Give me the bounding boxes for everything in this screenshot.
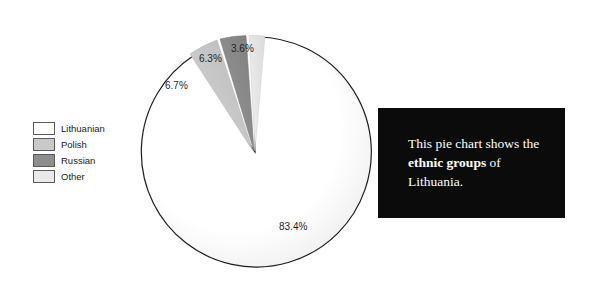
- slice-label-polish: 6.7%: [165, 80, 188, 91]
- legend-swatch-lithuanian: [33, 122, 55, 135]
- caption-box: This pie chart shows the ethnic groups o…: [378, 108, 565, 218]
- slice-label-russian: 6.3%: [199, 53, 222, 64]
- legend-swatch-russian: [33, 154, 55, 167]
- legend-label-polish: Polish: [61, 138, 87, 151]
- slice-label-lithuanian: 83.4%: [279, 221, 307, 232]
- legend-label-russian: Russian: [61, 154, 95, 167]
- legend-item-other: Other: [33, 169, 143, 184]
- legend-item-lithuanian: Lithuanian: [33, 121, 143, 136]
- legend-label-other: Other: [61, 170, 85, 183]
- chart-legend: Lithuanian Polish Russian Other: [33, 121, 143, 185]
- legend-item-polish: Polish: [33, 137, 143, 152]
- caption-emphasis: ethnic groups: [408, 155, 486, 170]
- pie-chart-figure: 83.4% 6.7% 6.3% 3.6% Lithuanian Polish R…: [0, 0, 590, 300]
- legend-item-russian: Russian: [33, 153, 143, 168]
- legend-swatch-polish: [33, 138, 55, 151]
- caption-text: This pie chart shows the ethnic groups o…: [408, 134, 553, 191]
- caption-part-1: This pie chart shows the: [408, 136, 539, 151]
- legend-swatch-other: [33, 170, 55, 183]
- slice-label-other: 3.6%: [231, 43, 254, 54]
- legend-label-lithuanian: Lithuanian: [61, 122, 105, 135]
